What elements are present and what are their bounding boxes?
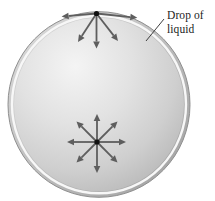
surface-molecule-dot (94, 11, 99, 16)
drop-label-line1: Drop of (167, 8, 204, 22)
drop-label-line2: liquid (167, 22, 204, 36)
figure-drop-of-liquid: Drop of liquid (0, 0, 215, 201)
drop-label: Drop of liquid (167, 8, 204, 36)
drop-body (14, 18, 184, 192)
interior-molecule-dot (94, 139, 99, 144)
